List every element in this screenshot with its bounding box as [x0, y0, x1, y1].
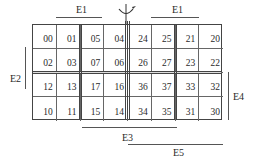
cell: 12 — [33, 73, 57, 97]
cell: 24 — [128, 25, 152, 49]
e3-bar — [82, 127, 177, 128]
cell: 13 — [57, 73, 81, 97]
cell: 27 — [152, 49, 176, 73]
e3-label: E3 — [122, 133, 133, 143]
cell: 15 — [81, 97, 105, 121]
cell: 03 — [57, 49, 81, 73]
cell: 22 — [199, 49, 223, 73]
cell: 33 — [176, 73, 200, 97]
e4-bar — [228, 72, 229, 120]
cell: 30 — [199, 97, 223, 121]
e2-bar — [25, 47, 26, 89]
cell: 26 — [128, 49, 152, 73]
cell: 31 — [176, 97, 200, 121]
cell: 36 — [128, 73, 152, 97]
cell: 10 — [33, 97, 57, 121]
cell: 34 — [128, 97, 152, 121]
vertical-mirror-line-left — [79, 25, 82, 119]
e5-label: E5 — [173, 148, 184, 158]
e1-right-bar — [151, 17, 199, 18]
e5-bar — [128, 144, 223, 145]
e2-label: E2 — [10, 74, 21, 84]
cell: 37 — [152, 73, 176, 97]
e1-right-label: E1 — [172, 5, 183, 15]
cell: 23 — [176, 49, 200, 73]
cell: 17 — [81, 73, 105, 97]
cell: 00 — [33, 25, 57, 49]
cell: 35 — [152, 97, 176, 121]
e1-left-label: E1 — [76, 5, 87, 15]
cell: 11 — [57, 97, 81, 121]
cell: 01 — [57, 25, 81, 49]
cell: 05 — [81, 25, 105, 49]
cell: 02 — [33, 49, 57, 73]
cell: 25 — [152, 25, 176, 49]
cell: 21 — [176, 25, 200, 49]
vertical-mirror-line-right — [174, 25, 177, 119]
karnaugh-map-grid: 00 01 05 04 24 25 21 20 02 03 07 06 26 2… — [32, 24, 222, 120]
e1-left-bar — [56, 17, 102, 18]
cell: 07 — [81, 49, 105, 73]
e4-label: E4 — [233, 92, 244, 102]
center-mirror-axis — [125, 21, 130, 119]
cell: 32 — [199, 73, 223, 97]
cell: 20 — [199, 25, 223, 49]
